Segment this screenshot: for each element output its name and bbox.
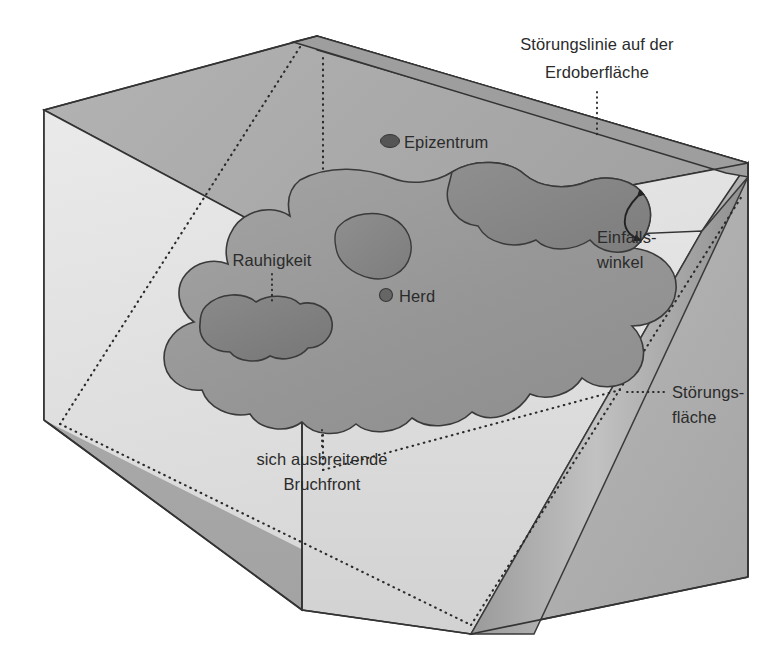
label-hypocenter: Herd xyxy=(399,287,435,305)
hypocenter-dot xyxy=(380,289,393,302)
label-fault-line-surface-line2: Erdoberfläche xyxy=(545,63,649,81)
block-diagram-svg: Störungslinie auf der Erdoberfläche Epiz… xyxy=(0,0,782,664)
label-roughness: Rauhigkeit xyxy=(233,251,312,269)
label-rupture-front-line2: Bruchfront xyxy=(283,475,360,493)
epicenter-dot xyxy=(381,135,400,148)
label-fault-plane-line2: fläche xyxy=(672,408,717,426)
figure-canvas: Störungslinie auf der Erdoberfläche Epiz… xyxy=(0,0,782,664)
label-rupture-front-line1: sich ausbreitende xyxy=(256,450,387,468)
label-fault-plane-line1: Störungs- xyxy=(672,383,744,401)
label-fault-line-surface-line1: Störungslinie auf der xyxy=(520,35,674,53)
label-epicenter: Epizentrum xyxy=(404,133,488,151)
label-dip-angle-line2: winkel xyxy=(596,253,643,271)
label-dip-angle-line1: Einfalls- xyxy=(597,228,657,246)
